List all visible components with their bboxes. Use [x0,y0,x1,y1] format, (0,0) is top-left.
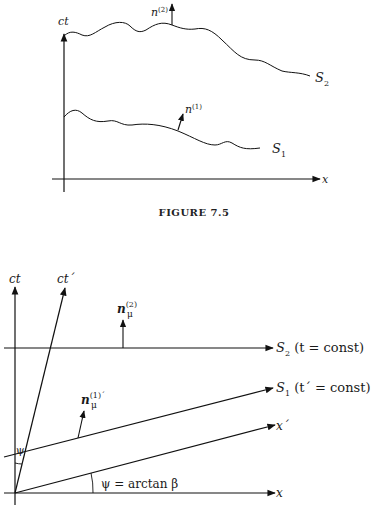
ct-axis-label: ct [9,272,21,286]
normal-n1-prime-sub: μ [91,400,97,410]
surface-s2-label: S2 [315,70,329,88]
angle-formula-label: ψ = arctan β [101,477,178,491]
normal-n2-label: n(2) [151,6,168,19]
ct-prime-axis [15,288,65,493]
ct-axis-label: ct [58,15,69,28]
x-axis-label: x [322,173,329,186]
angle-arc-ct [15,463,22,464]
x-prime-axis-label: x´ [276,419,290,433]
angle-arc-x [91,473,93,493]
normal-n1-prime-arrow [78,411,84,438]
ct-prime-axis-label: ct´ [57,272,76,286]
diagram-canvas: ct x n(2) n(1) S2 S1 FIGURE 7.5 ct ct´ x… [0,0,388,522]
normal-n2-sub: μ [127,309,133,319]
surface-s1-line [4,388,273,457]
figure-7-5: ct x n(2) n(1) S2 S1 FIGURE 7.5 [52,4,329,218]
figure-caption: FIGURE 7.5 [159,207,230,218]
x-axis-label: x [276,486,283,500]
angle-psi-label: ψ [16,444,25,457]
surface-s2 [64,22,310,76]
normal-n1-arrow [178,114,183,130]
surface-s2-label: S2 (t = const) [276,340,364,358]
surface-s1-label: S1 (t´ = const) [276,380,371,398]
normal-n1-label: n(1) [185,103,202,116]
surface-s1 [64,110,260,149]
surface-s1-label: S1 [272,141,286,159]
lorentz-frame-diagram: ct ct´ x x´ S2 (t = const) S1 (t´ = cons… [4,272,371,505]
